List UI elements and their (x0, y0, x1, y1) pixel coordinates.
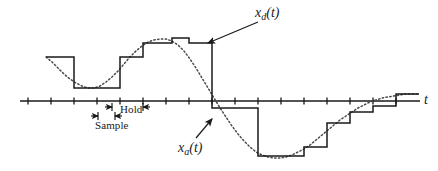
curve-xa-analog (46, 39, 418, 158)
label-xa: xa(t) (178, 140, 202, 157)
curve-xd-staircase (46, 38, 419, 156)
label-xa-arg: (t) (189, 140, 202, 155)
label-time-axis: t (424, 92, 428, 108)
figure-canvas (0, 0, 438, 171)
label-xd: xd(t) (255, 5, 279, 22)
figure-sample-and-hold: xd(t) xa(t) t Hold Sample (0, 0, 438, 171)
label-xd-arg: (t) (266, 5, 279, 20)
label-sample: Sample (95, 119, 129, 131)
label-hold: Hold (120, 103, 142, 115)
time-axis (20, 98, 420, 105)
leader-line-xd (208, 22, 258, 43)
leader-line-xa (196, 119, 212, 138)
